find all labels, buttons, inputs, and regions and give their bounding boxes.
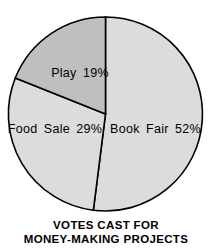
pie-slice-book-fair[interactable]	[93, 17, 202, 211]
chart-title-line-1: VOTES CAST FOR	[0, 219, 212, 233]
pie-slice-label-book-fair: Book Fair 52%	[110, 122, 201, 136]
pie-slice-label-play: Play 19%	[51, 66, 109, 80]
pie-slice-label-food-sale: Food Sale 29%	[8, 122, 102, 136]
chart-title: VOTES CAST FOR MONEY-MAKING PROJECTS	[0, 219, 212, 246]
pie-chart-plot-area: Book Fair 52% Food Sale 29% Play 19%	[0, 0, 212, 216]
chart-title-line-2: MONEY-MAKING PROJECTS	[0, 233, 212, 247]
pie-chart-svg: Book Fair 52% Food Sale 29% Play 19%	[0, 0, 212, 216]
pie-chart-figure: Book Fair 52% Food Sale 29% Play 19% VOT…	[0, 0, 212, 250]
